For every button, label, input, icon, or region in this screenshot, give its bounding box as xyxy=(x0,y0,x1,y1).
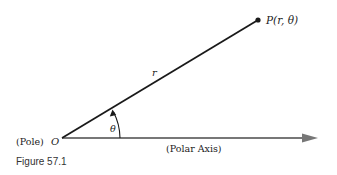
figure-caption: Figure 57.1 xyxy=(16,156,67,167)
polar-axis-arrowhead xyxy=(302,134,318,143)
origin-label: O xyxy=(51,136,59,147)
angle-label: θ xyxy=(110,123,116,134)
radius-ray xyxy=(62,20,258,138)
pole-label: (Pole) xyxy=(16,136,44,147)
point-p-label: P(r, θ) xyxy=(265,14,298,26)
polar-coordinates-diagram: P(r, θ) r θ (Pole) O (Polar Axis) Figure… xyxy=(0,0,337,175)
point-p-dot xyxy=(255,17,260,22)
radius-label: r xyxy=(152,67,158,78)
polar-axis-label: (Polar Axis) xyxy=(166,143,222,154)
